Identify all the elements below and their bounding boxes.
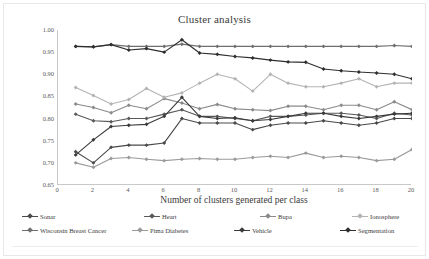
legend-item-bupa[interactable]: Bupa bbox=[260, 213, 292, 220]
series-wisconsin-breast-cancer bbox=[74, 42, 412, 49]
data-point bbox=[91, 94, 95, 98]
legend-item-sonar[interactable]: Sonar bbox=[22, 213, 55, 220]
series-ionosphere bbox=[74, 72, 412, 106]
data-point bbox=[392, 44, 396, 48]
data-point bbox=[145, 117, 149, 121]
data-point bbox=[392, 117, 396, 121]
data-point bbox=[322, 119, 326, 123]
data-point bbox=[375, 121, 379, 125]
data-point bbox=[145, 157, 149, 161]
data-point bbox=[322, 44, 326, 48]
data-point bbox=[286, 114, 290, 118]
data-point bbox=[304, 121, 308, 125]
x-tick-label: 10 bbox=[224, 187, 244, 194]
data-point bbox=[233, 44, 237, 48]
data-point bbox=[91, 106, 95, 110]
data-point bbox=[392, 72, 396, 76]
y-tick-label: 0.95 bbox=[28, 49, 54, 56]
data-point bbox=[215, 121, 219, 125]
legend-item-heart[interactable]: Heart bbox=[144, 213, 177, 220]
legend-marker-icon bbox=[22, 213, 38, 220]
data-point bbox=[180, 42, 184, 46]
data-point bbox=[304, 85, 308, 89]
data-point bbox=[268, 123, 272, 127]
data-point bbox=[109, 120, 113, 124]
legend-item-vehicle[interactable]: Vehicle bbox=[234, 227, 272, 234]
data-point bbox=[198, 121, 202, 125]
legend-label: Wisconsin Breast Cancer bbox=[40, 227, 106, 234]
data-point bbox=[357, 70, 361, 74]
data-point bbox=[322, 111, 326, 115]
y-tick-label: 1.00 bbox=[28, 27, 54, 34]
data-point bbox=[109, 102, 113, 106]
data-point bbox=[109, 43, 113, 47]
legend-marker-icon bbox=[340, 227, 356, 234]
series-heart bbox=[74, 108, 412, 124]
data-point bbox=[91, 45, 95, 49]
data-point bbox=[357, 113, 361, 117]
data-point bbox=[268, 109, 272, 113]
data-point bbox=[322, 85, 326, 89]
data-point bbox=[198, 44, 202, 48]
legend-label: Bupa bbox=[278, 213, 292, 220]
y-axis-tick-labels: 0.650.700.750.800.850.900.951.00 bbox=[28, 30, 54, 185]
data-point bbox=[357, 77, 361, 81]
y-tick-label: 0.80 bbox=[28, 116, 54, 123]
chart-title: Cluster analysis bbox=[0, 13, 429, 25]
data-point bbox=[233, 121, 237, 125]
legend-item-pima-diabetes[interactable]: Pima Diabetes bbox=[132, 227, 188, 234]
y-tick-label: 0.75 bbox=[28, 138, 54, 145]
y-tick-label: 0.90 bbox=[28, 71, 54, 78]
data-point bbox=[392, 81, 396, 85]
data-point bbox=[322, 108, 326, 112]
data-point bbox=[180, 157, 184, 161]
data-point bbox=[410, 77, 412, 81]
data-point bbox=[180, 108, 184, 112]
series-pima-diabetes bbox=[74, 148, 412, 170]
series-bupa bbox=[74, 97, 412, 115]
series-plot bbox=[58, 30, 412, 185]
y-tick-label: 0.70 bbox=[28, 160, 54, 167]
data-point bbox=[339, 44, 343, 48]
data-point bbox=[286, 121, 290, 125]
data-point bbox=[286, 60, 290, 64]
data-point bbox=[180, 101, 184, 105]
legend-label: Sonar bbox=[40, 213, 55, 220]
data-point bbox=[74, 86, 78, 90]
legend-label: Heart bbox=[162, 213, 177, 220]
data-point bbox=[410, 108, 412, 112]
data-point bbox=[286, 104, 290, 108]
x-tick-label: 20 bbox=[401, 187, 421, 194]
legend-row: SonarHeartBupaIonosphere bbox=[22, 213, 412, 226]
data-point bbox=[127, 48, 131, 52]
data-point bbox=[251, 108, 255, 112]
x-tick-label: 14 bbox=[295, 187, 315, 194]
legend-item-segmentation[interactable]: Segmentation bbox=[340, 227, 394, 234]
data-point bbox=[375, 71, 379, 75]
data-point bbox=[233, 55, 237, 59]
data-point bbox=[322, 156, 326, 160]
x-axis-title: Number of clusters generated per class bbox=[57, 195, 411, 205]
data-point bbox=[339, 81, 343, 85]
series-segmentation bbox=[74, 38, 412, 81]
data-point bbox=[109, 156, 113, 160]
data-point bbox=[215, 52, 219, 56]
data-point bbox=[251, 128, 255, 132]
x-tick-label: 8 bbox=[189, 187, 209, 194]
data-point bbox=[357, 117, 361, 121]
data-point bbox=[375, 108, 379, 112]
legend-item-wisconsin-breast-cancer[interactable]: Wisconsin Breast Cancer bbox=[22, 227, 106, 234]
data-point bbox=[304, 60, 308, 64]
data-point bbox=[375, 159, 379, 163]
data-point bbox=[109, 111, 113, 115]
data-point bbox=[215, 72, 219, 76]
data-point bbox=[233, 157, 237, 161]
data-point bbox=[410, 44, 412, 48]
legend-label: Vehicle bbox=[252, 227, 272, 234]
data-point bbox=[198, 156, 202, 160]
legend-marker-icon bbox=[260, 213, 276, 220]
legend-item-ionosphere[interactable]: Ionosphere bbox=[352, 213, 399, 220]
data-point bbox=[215, 102, 219, 106]
data-point bbox=[304, 104, 308, 108]
y-tick-label: 0.85 bbox=[28, 93, 54, 100]
